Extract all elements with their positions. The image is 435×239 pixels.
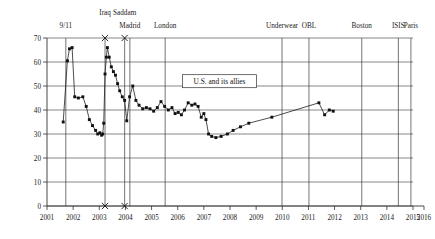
y-tick-label: 70	[34, 35, 42, 43]
event-label-paris: Paris	[404, 22, 419, 30]
y-tick-label: 20	[34, 155, 42, 163]
data-point	[112, 70, 115, 73]
x-tick-label: 2004	[118, 214, 133, 222]
data-point	[205, 118, 208, 121]
callout-label: U.S. and its allies	[194, 77, 246, 86]
y-tick-label: 10	[34, 179, 42, 187]
event-label-madrid: Madrid	[119, 22, 141, 30]
data-point	[174, 112, 177, 115]
data-point	[145, 106, 148, 109]
event-label-saddam: Saddam	[113, 9, 137, 17]
data-point	[180, 113, 183, 116]
event-label-underwear: Underwear	[266, 22, 299, 30]
data-point	[210, 135, 213, 138]
data-point	[138, 104, 141, 107]
event-label-9-11: 9/11	[60, 22, 73, 30]
data-point	[66, 59, 69, 62]
data-point	[110, 65, 113, 68]
data-point	[226, 133, 229, 136]
y-tick-label: 50	[34, 83, 42, 91]
data-point	[104, 73, 107, 76]
data-point	[108, 56, 111, 59]
event-annotations: 9/11IraqSaddamMadridLondonUnderwearOBLBo…	[60, 9, 419, 209]
data-point	[200, 116, 203, 119]
data-point	[88, 118, 91, 121]
data-point	[68, 47, 71, 50]
data-point	[131, 85, 134, 88]
data-point	[232, 129, 235, 132]
x-tick-label: 2001	[40, 214, 55, 222]
data-point	[247, 122, 250, 125]
event-label-london: London	[154, 22, 177, 30]
x-tick-label: 2011	[301, 214, 316, 222]
data-point	[128, 95, 131, 98]
data-point	[94, 129, 97, 132]
data-point	[177, 111, 180, 114]
data-point	[194, 103, 197, 106]
data-point	[105, 56, 108, 59]
y-tick-label: 60	[34, 59, 42, 67]
data-point	[71, 46, 74, 49]
x-tick-label: 2007	[197, 214, 212, 222]
x-tick-label: 2005	[144, 214, 159, 222]
x-tick-label: 2003	[92, 214, 107, 222]
event-label-boston: Boston	[352, 22, 373, 30]
data-point	[332, 110, 335, 113]
line-chart: 0102030405060702001200220032004200520062…	[0, 0, 435, 239]
callout-annotation: U.S. and its allies	[183, 75, 257, 88]
data-point	[106, 46, 109, 49]
data-point	[85, 105, 88, 108]
data-point	[239, 125, 242, 128]
data-point	[152, 110, 155, 113]
data-point	[171, 106, 174, 109]
data-point	[156, 106, 159, 109]
data-point	[197, 105, 200, 108]
data-point	[163, 105, 166, 108]
data-point	[141, 107, 144, 110]
data-point	[328, 109, 331, 112]
data-series	[62, 46, 335, 139]
x-tick-label: 2012	[327, 214, 342, 222]
x-tick-label: 2014	[380, 214, 395, 222]
data-point	[183, 109, 186, 112]
x-axis: 2001200220032004200520062007200820092010…	[40, 38, 432, 222]
data-point	[160, 100, 163, 103]
data-point	[114, 74, 117, 77]
data-point	[214, 136, 217, 139]
y-tick-label: 30	[34, 131, 42, 139]
data-point	[190, 104, 193, 107]
x-tick-label: 2009	[249, 214, 264, 222]
x-tick-label: 2002	[66, 214, 81, 222]
data-point	[121, 95, 124, 98]
y-tick-label: 40	[34, 107, 42, 115]
data-point	[207, 133, 210, 136]
data-point	[167, 109, 170, 112]
data-point	[123, 99, 126, 102]
data-point	[91, 124, 94, 127]
x-tick-label: 2008	[223, 214, 238, 222]
x-tick-label: 2010	[275, 214, 290, 222]
data-point	[187, 101, 190, 104]
data-point	[73, 95, 76, 98]
data-point	[118, 89, 121, 92]
data-point	[270, 116, 273, 119]
data-point	[101, 133, 104, 136]
x-tick-label: 2006	[171, 214, 186, 222]
y-tick-label: 0	[37, 203, 41, 211]
data-point	[116, 82, 119, 85]
x-tick-label: 2016	[417, 214, 432, 222]
data-point	[62, 121, 65, 124]
event-label-iraq: Iraq	[99, 9, 111, 17]
data-point	[149, 107, 152, 110]
data-point	[125, 119, 128, 122]
event-label-obl: OBL	[302, 22, 316, 30]
chart-container: 0102030405060702001200220032004200520062…	[0, 0, 435, 239]
data-point	[81, 95, 84, 98]
data-point	[317, 101, 320, 104]
data-point	[102, 122, 105, 125]
data-point	[220, 135, 223, 138]
data-point	[323, 113, 326, 116]
x-tick-label: 2013	[354, 214, 369, 222]
data-point	[134, 99, 137, 102]
data-point	[77, 97, 80, 100]
